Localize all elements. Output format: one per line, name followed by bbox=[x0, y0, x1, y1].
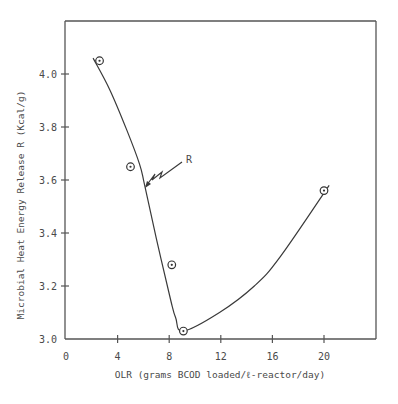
y-tick-label: 3.0 bbox=[39, 334, 57, 345]
y-tick-labels: 3.03.23.43.63.84.0 bbox=[39, 69, 57, 345]
x-tick-label: 20 bbox=[318, 351, 330, 362]
y-tick-label: 3.6 bbox=[39, 175, 57, 186]
plot-frame bbox=[65, 21, 376, 339]
data-point-marker bbox=[180, 327, 188, 335]
r-annotation-label: R bbox=[186, 154, 193, 165]
zigzag-arrow-icon bbox=[146, 162, 182, 186]
x-tick-label: 8 bbox=[166, 351, 172, 362]
chart: 048121620 3.03.23.43.63.84.0 OLR (grams … bbox=[0, 0, 398, 404]
x-tick-labels: 048121620 bbox=[63, 351, 330, 362]
y-tick-label: 3.2 bbox=[39, 281, 57, 292]
x-tick-label: 12 bbox=[215, 351, 227, 362]
y-tick-label: 4.0 bbox=[39, 69, 57, 80]
x-tick-label: 0 bbox=[63, 351, 69, 362]
y-axis-label: Microbial Heat Energy Release R (Kcal/g) bbox=[15, 91, 26, 320]
data-point-marker bbox=[168, 261, 176, 269]
fitted-curve bbox=[93, 58, 329, 331]
x-tick-label: 4 bbox=[115, 351, 121, 362]
data-point-marker bbox=[320, 187, 328, 195]
data-markers bbox=[96, 57, 328, 335]
x-tick-label: 16 bbox=[266, 351, 278, 362]
data-point-marker bbox=[127, 163, 135, 171]
r-annotation: R bbox=[145, 154, 193, 188]
arrowhead-icon bbox=[145, 181, 151, 188]
data-point-marker bbox=[96, 57, 104, 65]
y-tick-label: 3.4 bbox=[39, 228, 57, 239]
y-tick-label: 3.8 bbox=[39, 122, 57, 133]
x-axis-label: OLR (grams BCOD loaded/ℓ-reactor/day) bbox=[115, 369, 325, 380]
